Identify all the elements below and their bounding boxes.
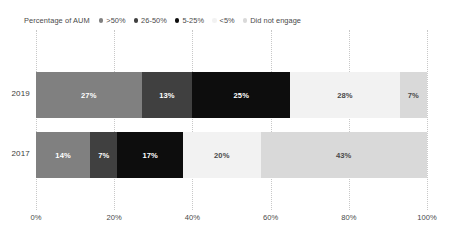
x-axis-tick-label: 40%: [185, 213, 200, 222]
legend-swatch-icon: [99, 18, 104, 23]
gridline: [114, 30, 115, 210]
bar-segment-label: 7%: [98, 151, 109, 160]
bar-segment-label: 7%: [408, 91, 419, 100]
gridline: [36, 30, 37, 210]
legend-title: Percentage of AUM: [24, 16, 90, 25]
bar-segment-label: 17%: [142, 151, 158, 160]
x-axis-tick-label: 100%: [417, 213, 436, 222]
gridline: [427, 30, 428, 210]
bar-track: 14%7%17%20%43%: [36, 132, 427, 178]
bar-row-2017: 14%7%17%20%43%: [36, 132, 427, 178]
plot-area: 27%13%25%28%7% 14%7%17%20%43%: [36, 30, 427, 210]
legend-item-26-50[interactable]: 26-50%: [134, 16, 167, 25]
legend-swatch-icon: [243, 18, 248, 23]
bar-segment[interactable]: 28%: [290, 72, 399, 118]
legend-swatch-icon: [175, 18, 180, 23]
bar-segment-label: 20%: [214, 151, 230, 160]
bar-segment-label: 25%: [234, 91, 250, 100]
legend-item-label: <5%: [220, 16, 235, 25]
bar-segment-label: 28%: [337, 91, 353, 100]
legend-item-label: 26-50%: [141, 16, 167, 25]
x-axis-tick-label: 20%: [107, 213, 122, 222]
bar-segment[interactable]: 14%: [36, 132, 90, 178]
bar-segment[interactable]: 25%: [192, 72, 290, 118]
bar-segment[interactable]: 20%: [183, 132, 260, 178]
legend-item-5-25[interactable]: 5-25%: [175, 16, 204, 25]
legend-item-label: >50%: [106, 16, 125, 25]
bar-segment[interactable]: 43%: [261, 132, 427, 178]
bar-segment-label: 27%: [81, 91, 97, 100]
bar-segment-label: 13%: [159, 91, 175, 100]
chart-legend: Percentage of AUM >50% 26-50% 5-25% <5% …: [24, 14, 309, 27]
x-axis-tick-label: 0%: [31, 213, 42, 222]
bar-segment[interactable]: 17%: [117, 132, 183, 178]
legend-swatch-icon: [134, 18, 139, 23]
legend-swatch-icon: [212, 18, 217, 23]
bar-row-2019: 27%13%25%28%7%: [36, 72, 427, 118]
legend-item-gt50[interactable]: >50%: [99, 16, 126, 25]
stacked-bar-chart: Percentage of AUM >50% 26-50% 5-25% <5% …: [0, 0, 449, 237]
bar-segment-label: 43%: [336, 151, 352, 160]
legend-item-lt5[interactable]: <5%: [212, 16, 235, 25]
x-axis: 0%20%40%60%80%100%: [36, 213, 427, 227]
x-axis-tick-label: 60%: [263, 213, 278, 222]
gridline: [192, 30, 193, 210]
y-axis-label-2019: 2019: [0, 89, 30, 98]
bar-segment[interactable]: 7%: [400, 72, 427, 118]
bar-track: 27%13%25%28%7%: [36, 72, 427, 118]
gridline: [349, 30, 350, 210]
bar-segment[interactable]: 27%: [36, 72, 142, 118]
bar-segment-label: 14%: [55, 151, 71, 160]
x-axis-tick-label: 80%: [341, 213, 356, 222]
legend-item-label: 5-25%: [182, 16, 204, 25]
legend-item-label: Did not engage: [250, 16, 301, 25]
gridline: [271, 30, 272, 210]
legend-item-did-not-engage[interactable]: Did not engage: [243, 16, 301, 25]
bar-segment[interactable]: 7%: [90, 132, 117, 178]
y-axis-label-2017: 2017: [0, 149, 30, 158]
bar-segment[interactable]: 13%: [142, 72, 193, 118]
